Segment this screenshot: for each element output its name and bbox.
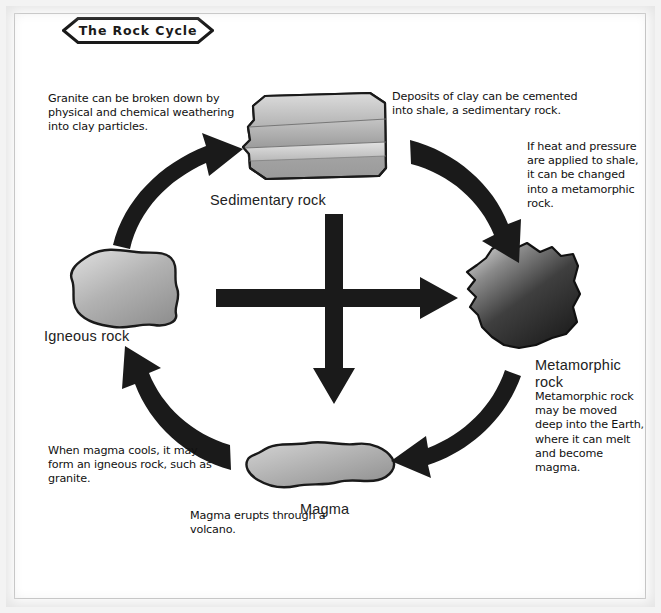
rock-cycle-page: The Rock Cycle: [0, 0, 661, 613]
center-cross-arrows: [216, 214, 458, 404]
label-magma: Magma: [300, 501, 400, 518]
note-metamorphic-melts: Metamorphic rock may be moved deep into …: [535, 390, 647, 475]
note-granite-weathering: Granite can be broken down by physical a…: [48, 92, 248, 135]
arrow-metamorphic-to-magma: [391, 370, 521, 478]
magma-shape: [246, 442, 394, 487]
note-magma-cools: When magma cools, it may form an igneous…: [48, 444, 226, 487]
arrow-igneous-to-sedimentary: [113, 133, 243, 249]
page-title: The Rock Cycle: [62, 17, 214, 44]
title-banner: The Rock Cycle: [62, 17, 214, 44]
sedimentary-rock-shape: [243, 93, 386, 179]
note-heat-pressure: If heat and pressure are applied to shal…: [527, 140, 639, 211]
label-igneous-rock: Igneous rock: [44, 328, 184, 345]
igneous-rock-shape: [71, 250, 178, 328]
arrow-sedimentary-to-metamorphic: [410, 140, 521, 263]
label-sedimentary-rock: Sedimentary rock: [210, 192, 370, 209]
metamorphic-rock-shape: [467, 242, 580, 348]
label-metamorphic-rock: Metamorphic rock: [535, 357, 651, 391]
note-clay-cemented: Deposits of clay can be cemented into sh…: [392, 90, 598, 118]
